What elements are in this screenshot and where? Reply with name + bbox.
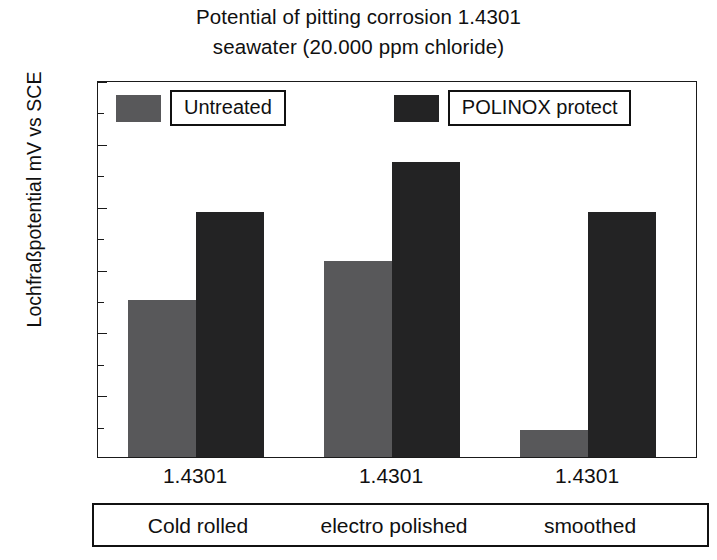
chart-title: Potential of pitting corrosion 1.4301 se…: [0, 2, 717, 62]
y-axis-title: Lochfraßpotential mV vs SCE: [23, 0, 46, 410]
bars-layer: [98, 82, 696, 457]
legend-entry-polinox: POLINOX protect: [394, 90, 632, 126]
condition-legend-box: Cold rolled electro polished smoothed: [92, 503, 709, 547]
condition-label-electro-polished: electro polished: [296, 514, 492, 538]
x-tick-label-group-2: 1.4301: [293, 464, 489, 488]
bar-polinox-smoothed: [588, 212, 656, 457]
plot-area: 600 500 400 300 200 100 0: [97, 81, 697, 458]
chart-title-line-2: seawater (20.000 ppm chloride): [0, 32, 717, 62]
x-tick-label-group-1: 1.4301: [97, 464, 293, 488]
pitting-corrosion-bar-chart: Potential of pitting corrosion 1.4301 se…: [0, 0, 717, 560]
chart-legend: Untreated POLINOX protect: [116, 90, 631, 126]
legend-swatch-polinox: [394, 95, 439, 122]
condition-label-smoothed: smoothed: [492, 514, 688, 538]
bar-polinox-cold-rolled: [196, 212, 264, 457]
legend-label-polinox: POLINOX protect: [448, 90, 632, 126]
bar-polinox-electro-polished: [392, 162, 460, 457]
legend-label-untreated: Untreated: [170, 90, 286, 126]
bar-untreated-smoothed: [520, 430, 588, 457]
bar-untreated-electro-polished: [324, 261, 392, 457]
legend-swatch-untreated: [116, 95, 161, 122]
legend-entry-untreated: Untreated: [116, 90, 286, 126]
x-tick-label-group-3: 1.4301: [489, 464, 685, 488]
condition-label-cold-rolled: Cold rolled: [100, 514, 296, 538]
bar-untreated-cold-rolled: [128, 300, 196, 457]
chart-title-line-1: Potential of pitting corrosion 1.4301: [0, 2, 717, 32]
